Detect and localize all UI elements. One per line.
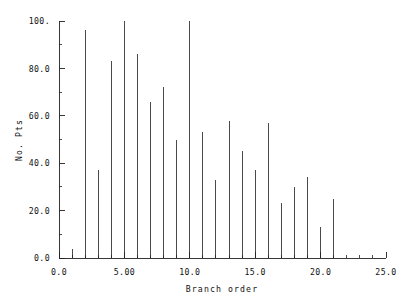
y-tick-label-3: 60.0 bbox=[29, 111, 50, 121]
x-tick-labels: 0.05.0010.015.020.025.0 bbox=[51, 267, 397, 277]
x-tick-label-3: 15.0 bbox=[245, 267, 266, 277]
y-tick-label-4: 80.0 bbox=[29, 64, 50, 74]
x-tick-label-0: 0.0 bbox=[51, 267, 67, 277]
y-tick-label-5: 100. bbox=[29, 16, 50, 26]
x-tick-label-1: 5.00 bbox=[114, 267, 135, 277]
x-tick-label-2: 10.0 bbox=[179, 267, 200, 277]
y-axis-title: No. Pts bbox=[14, 119, 24, 161]
y-tick-label-2: 40.0 bbox=[29, 158, 50, 168]
x-tick-label-5: 25.0 bbox=[375, 267, 396, 277]
chart-figure: 0.05.0010.015.020.025.0 0.020.040.060.08… bbox=[0, 0, 406, 305]
x-axis-title: Branch order bbox=[186, 284, 258, 294]
y-tick-labels: 0.020.040.060.080.0100. bbox=[29, 16, 50, 263]
x-axis bbox=[59, 252, 386, 258]
bar-series bbox=[72, 21, 334, 258]
y-tick-label-1: 20.0 bbox=[29, 206, 50, 216]
y-axis bbox=[59, 21, 65, 258]
y-tick-label-0: 0.0 bbox=[34, 253, 50, 263]
x-tick-label-4: 20.0 bbox=[310, 267, 331, 277]
